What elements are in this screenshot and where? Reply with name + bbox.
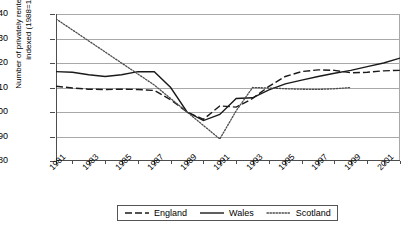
legend-label: England bbox=[154, 208, 187, 218]
x-axis-tick bbox=[400, 161, 401, 164]
y-axis-tick-label: 130 bbox=[0, 33, 8, 43]
legend-key-scotland-icon bbox=[266, 209, 292, 217]
y-axis-tick bbox=[50, 88, 55, 89]
x-axis-tick bbox=[334, 161, 335, 164]
y-axis-tick bbox=[50, 63, 55, 64]
chart-figure: Number of privately rented dwellings ind… bbox=[0, 0, 412, 229]
series-line-england bbox=[56, 70, 400, 119]
y-axis-title: Number of privately rented dwellings ind… bbox=[12, 0, 36, 104]
legend-label: Wales bbox=[229, 208, 254, 218]
legend-key-england-icon bbox=[124, 209, 150, 217]
y-axis-tick bbox=[50, 112, 55, 113]
legend-key-wales-icon bbox=[199, 209, 225, 217]
legend-item-england[interactable]: England bbox=[124, 208, 187, 218]
chart-legend: EnglandWalesScotland bbox=[117, 205, 338, 221]
y-axis-tick bbox=[50, 39, 55, 40]
data-lines bbox=[56, 14, 400, 161]
legend-item-wales[interactable]: Wales bbox=[199, 208, 254, 218]
x-axis-tick bbox=[105, 161, 106, 164]
x-axis-tick bbox=[203, 161, 204, 164]
y-axis-tick-label: 100 bbox=[0, 106, 8, 116]
x-axis-tick bbox=[236, 161, 237, 164]
x-axis-tick-label: 1981 bbox=[47, 152, 67, 172]
y-axis-tick-label: 120 bbox=[0, 57, 8, 67]
x-axis-tick bbox=[72, 161, 73, 164]
y-axis-tick-label: 110 bbox=[0, 82, 8, 92]
x-axis-tick bbox=[138, 161, 139, 164]
y-axis-tick-label: 140 bbox=[0, 8, 8, 18]
x-axis-tick bbox=[171, 161, 172, 164]
x-axis-tick bbox=[367, 161, 368, 164]
y-axis-tick bbox=[50, 137, 55, 138]
legend-item-scotland[interactable]: Scotland bbox=[266, 208, 331, 218]
x-axis-tick bbox=[269, 161, 270, 164]
plot-area bbox=[56, 14, 400, 161]
y-axis-tick-label: 90 bbox=[0, 131, 8, 141]
y-axis-tick-label: 80 bbox=[0, 155, 8, 165]
x-axis-tick bbox=[302, 161, 303, 164]
legend-label: Scotland bbox=[296, 208, 331, 218]
y-axis-tick bbox=[50, 14, 55, 15]
